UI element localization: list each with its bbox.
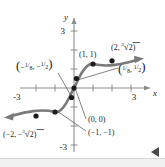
play-back-triangle-icon[interactable] xyxy=(151,147,159,157)
curve-arrow-left xyxy=(4,113,14,120)
y-tick-label-top: 3 xyxy=(61,26,66,36)
axes-group xyxy=(20,18,150,152)
label-neg2-neg-cbrt2: (−2, −3√2) xyxy=(3,129,44,139)
point-neg1-neg1 xyxy=(52,109,57,114)
cube-root-function-graph: y x 3 -3 -3 3 xyxy=(0,0,165,167)
label-1-1: (1, 1) xyxy=(79,50,97,59)
point-eighth xyxy=(74,76,79,81)
point-1-1 xyxy=(90,61,95,66)
label-2-cbrt2-text: (2, 3√2) xyxy=(111,42,136,52)
x-tick-label-left: -3 xyxy=(13,92,21,102)
x-axis-label: x xyxy=(152,88,157,98)
point-neg2 xyxy=(33,113,38,118)
y-axis-label: y xyxy=(63,12,68,22)
x-axis-arrow xyxy=(144,85,150,90)
label-origin: (0, 0) xyxy=(88,115,106,124)
bottom-strip xyxy=(0,158,165,167)
point-neg-eighth xyxy=(69,95,74,100)
y-axis-arrow xyxy=(71,18,76,24)
label-neg1-neg1: (−1, −1) xyxy=(88,128,115,137)
leader-neg-eighth xyxy=(58,73,71,96)
leader-origin xyxy=(76,90,86,119)
x-tick-label-right: 3 xyxy=(132,92,137,102)
point-2-cbrt2 xyxy=(109,58,114,63)
label-2-cbrt2: (2, 3√2) xyxy=(111,42,140,52)
y-tick-label-bottom: -3 xyxy=(60,142,68,152)
point-origin xyxy=(71,85,76,90)
leader-neg1 xyxy=(57,111,86,131)
label-neg-eighth-neg-half: (−1/8, −1/2) xyxy=(16,56,53,73)
label-neg-eighth-text: (−1/8, −1/2) xyxy=(16,56,53,73)
label-neg2-text: (−2, −3√2) xyxy=(3,129,37,139)
graph-canvas: y x 3 -3 -3 3 xyxy=(0,0,165,167)
